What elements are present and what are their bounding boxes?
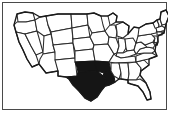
map-frame-border: [2, 2, 167, 110]
state-AL[interactable]: [119, 63, 129, 80]
state-FL[interactable]: [128, 79, 151, 100]
us-map-container: [3, 3, 168, 111]
state-KS[interactable]: [75, 49, 95, 62]
state-CO[interactable]: [53, 43, 75, 60]
state-shapes: [14, 10, 168, 101]
us-states-map: [3, 3, 168, 111]
screenshot-root: [0, 0, 172, 115]
